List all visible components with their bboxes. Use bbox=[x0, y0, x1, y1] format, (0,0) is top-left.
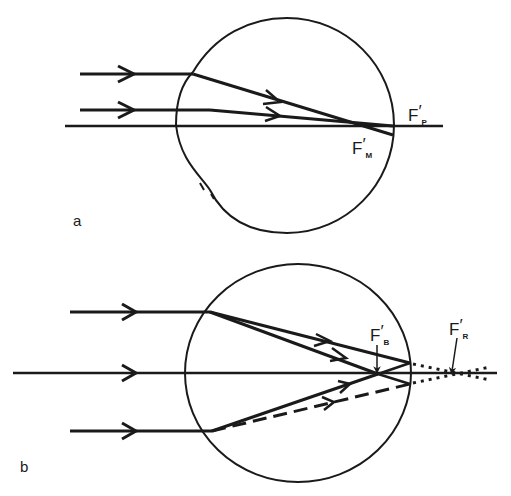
label-fr: F′R bbox=[449, 316, 469, 341]
top-ray-inner-arrow-2 bbox=[330, 348, 346, 361]
top-ray-to-blur bbox=[210, 312, 378, 374]
label-fb: F′B bbox=[370, 322, 390, 347]
panel-a bbox=[65, 18, 443, 233]
crossing-ray-down bbox=[378, 374, 410, 384]
fr-pointer bbox=[452, 338, 457, 371]
bottom-ray-to-blur bbox=[212, 374, 378, 431]
optics-figure: F′P F′M a F′B F′R b bbox=[0, 0, 511, 496]
bottom-ray-dashed bbox=[212, 384, 410, 431]
panel-b bbox=[13, 264, 497, 482]
panel-label-b: b bbox=[20, 458, 28, 475]
labels-b: F′B F′R b bbox=[20, 316, 469, 475]
panel-label-a: a bbox=[73, 212, 82, 229]
paraxial-ray-refracted bbox=[210, 110, 393, 126]
label-fp: F′P bbox=[408, 102, 428, 127]
label-fm: F′M bbox=[352, 135, 373, 160]
labels-a: F′P F′M a bbox=[73, 102, 428, 229]
